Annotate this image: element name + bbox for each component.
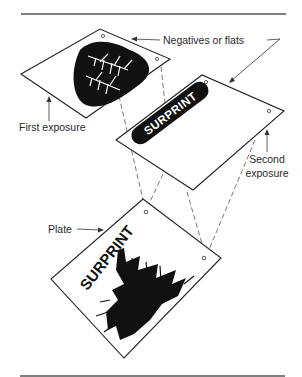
arrowhead-icon — [98, 228, 104, 233]
arrowhead-icon — [265, 129, 270, 135]
register-hole — [155, 57, 158, 60]
surprint-diagram: SURPRINT SURPRINT Negatives or flats Fir… — [0, 0, 302, 377]
second-exposure-label-1: Second — [249, 153, 285, 165]
arrowhead-icon — [131, 37, 137, 42]
register-hole — [202, 256, 206, 260]
register-hole — [204, 80, 207, 83]
plate-label: Plate — [48, 223, 72, 235]
plate-callout: Plate — [48, 223, 104, 235]
second-exposure-label-2: exposure — [245, 167, 288, 179]
register-hole — [144, 210, 148, 214]
register-hole — [267, 109, 270, 112]
first-exposure-label: First exposure — [19, 121, 86, 133]
arrowhead-icon — [47, 96, 52, 102]
plate: SURPRINT — [51, 199, 221, 358]
first-negative — [21, 29, 170, 118]
register-hole — [101, 34, 104, 37]
negatives-label: Negatives or flats — [163, 34, 244, 46]
